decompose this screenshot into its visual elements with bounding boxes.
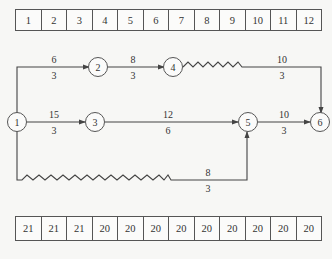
- edge-4-6: 10 3: [183, 54, 321, 113]
- edge-resource: 6: [166, 125, 171, 136]
- resource-cell: 20: [195, 217, 221, 240]
- node-3: 3: [86, 113, 105, 132]
- edge-resource: 3: [282, 125, 287, 136]
- edge-resource: 3: [52, 70, 57, 81]
- node-4: 4: [164, 58, 183, 77]
- resource-cell: 20: [118, 217, 144, 240]
- node-label: 2: [96, 62, 101, 73]
- edge-duration: 6: [52, 54, 57, 65]
- resource-cell: 21: [67, 217, 93, 240]
- resource-usage-table: 21 21 21 20 20 20 20 20 20 20 20 20: [15, 216, 322, 241]
- edge-3-5: 12 6: [105, 109, 238, 136]
- resource-cell: 20: [297, 217, 322, 240]
- resource-cell: 21: [42, 217, 68, 240]
- edge-duration: 10: [279, 109, 289, 120]
- edge-resource: 3: [52, 125, 57, 136]
- resource-cell: 20: [169, 217, 195, 240]
- node-label: 4: [171, 62, 176, 73]
- edge-1-3: 15 3: [27, 109, 85, 136]
- resource-cell: 20: [93, 217, 119, 240]
- edge-duration: 8: [131, 54, 136, 65]
- resource-cell: 20: [220, 217, 246, 240]
- edge-1-5: 8 3: [17, 131, 247, 194]
- edge-2-4: 8 3: [108, 54, 164, 81]
- edge-duration: 12: [163, 109, 173, 120]
- free-float-zigzag: [183, 62, 321, 113]
- node-label: 1: [15, 117, 20, 128]
- resource-cell: 20: [271, 217, 297, 240]
- node-6: 6: [311, 113, 330, 132]
- edge-5-6: 10 3: [258, 109, 310, 136]
- free-float-zigzag: [17, 131, 247, 180]
- node-5: 5: [239, 113, 258, 132]
- edge-duration: 15: [49, 109, 59, 120]
- node-2: 2: [89, 58, 108, 77]
- node-label: 3: [93, 117, 98, 128]
- node-label: 5: [246, 117, 251, 128]
- edge-resource: 3: [131, 70, 136, 81]
- resource-cell: 20: [246, 217, 272, 240]
- edge-duration: 10: [277, 54, 287, 65]
- resource-cell: 20: [144, 217, 170, 240]
- node-label: 6: [318, 117, 323, 128]
- edge-duration: 8: [206, 167, 211, 178]
- resource-cell: 21: [16, 217, 42, 240]
- edge-resource: 3: [280, 70, 285, 81]
- edge-resource: 3: [206, 183, 211, 194]
- node-1: 1: [8, 113, 27, 132]
- edge-1-2: 6 3: [17, 54, 89, 115]
